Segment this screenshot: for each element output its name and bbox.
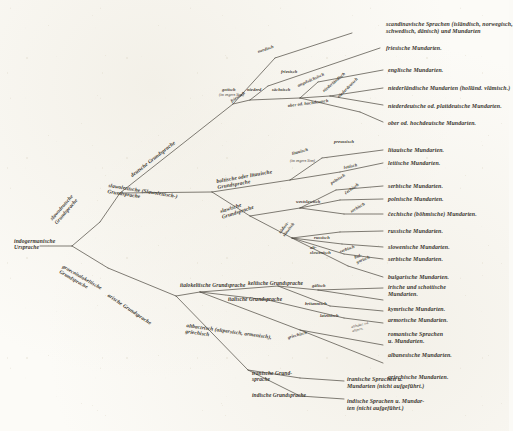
- node-label-italokeltische-grundsprache: italokeltische Grundsprache: [180, 282, 245, 288]
- node-label-friesisch: friesisch: [281, 70, 297, 75]
- leaf-label-englisch: englische Mundarten.: [388, 67, 443, 74]
- leaf-label-iranisch: iranische Sprachen u. Mundarten (nicht a…: [347, 376, 424, 389]
- leaf-label-indisch: indische Sprachen u. Mundar- ten (nicht …: [347, 398, 424, 411]
- node-note-litauisch: (im engern Sinn): [290, 160, 315, 164]
- leaf-label-lettisch: lettische Mundarten.: [388, 160, 440, 167]
- leaf-label-albanesisch: albanesische Mundarten.: [388, 352, 452, 359]
- node-label-saechsisch: sächsisch: [272, 88, 290, 93]
- node-label-niederd: niederd: [247, 88, 261, 93]
- leaf-label-cechisch: čechische (böhmische) Mundarten.: [388, 211, 477, 218]
- leaf-label-romanisch: romanische Sprachen u. Mundarten.: [388, 331, 443, 344]
- node-label-altslowenisch: alt- slowenisch: [310, 246, 331, 256]
- leaf-label-kymrisch: kymrische Mundarten.: [388, 306, 445, 313]
- leaf-label-irisch-schottisch: irische und schottische Mundarten.: [388, 284, 446, 297]
- leaf-label-slowenisch: slowenische Mundarten.: [388, 244, 450, 251]
- node-label-iranische-grundsprache: iranische Grund- sprache: [252, 370, 292, 382]
- node-label-lateinisch: lateinisch: [320, 314, 339, 319]
- leaf-label-armorisch: armorische Mundarten.: [388, 317, 448, 324]
- leaf-label-serbisch-sued: serbische Mundarten.: [388, 256, 443, 263]
- leaf-label-polnisch: polnische Mundarten.: [388, 196, 444, 203]
- node-label-italische-grundsprache: italische Grundsprache: [228, 296, 282, 302]
- leaf-label-serbisch-west: serbische Mundarten.: [388, 183, 443, 190]
- node-label-indogermanische-ursprache: indogermanische Ursprache: [14, 238, 55, 251]
- node-label-gaelisch: gälisch: [312, 284, 326, 289]
- node-label-westslawisch: westslawisch: [296, 200, 320, 205]
- leaf-label-litauisch: litauische Mundarten.: [388, 147, 444, 154]
- leaf-label-niederlaendisch: niederländische Mundarten (holländ. vläm…: [388, 85, 510, 92]
- node-label-britannisch: britannisch: [305, 302, 327, 307]
- leaf-label-russisch: russische Mundarten.: [388, 228, 443, 235]
- leaf-label-scandinavian: scandinavische Sprachen (isländisch, nor…: [386, 21, 513, 34]
- node-label-indische-grundsprache: indische Grundsprache: [252, 392, 306, 398]
- node-label-keltische-grundsprache: keltische Grundsprache: [248, 280, 303, 286]
- leaf-label-bulgarisch: bulgarische Mundarten.: [388, 274, 449, 281]
- node-label-russisch: russisch: [314, 236, 330, 241]
- leaf-label-hochdeutsch: ober od. hochdeutsche Mundarten.: [388, 120, 476, 127]
- leaf-label-plattdeutsch: niederdeutsche od. plattdeutsche Mundart…: [388, 103, 502, 110]
- node-label-preussisch: preussisch: [334, 140, 354, 145]
- leaf-label-friesisch: friesische Mundarten.: [386, 45, 442, 52]
